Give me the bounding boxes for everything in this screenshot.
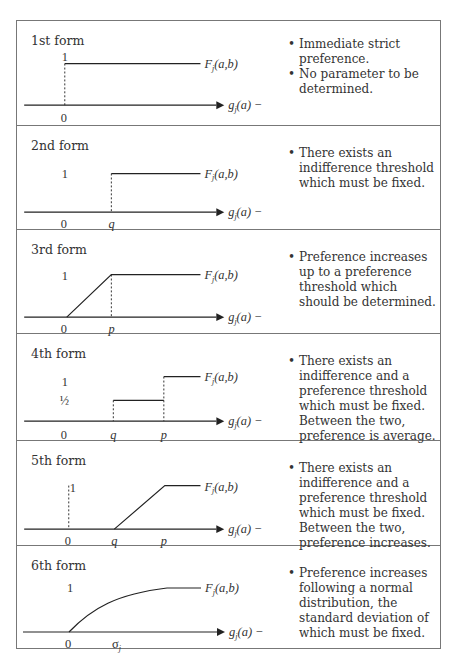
indifference-step-graph: 1 0 q Fj(a,b) gj(a) − bbox=[17, 126, 277, 229]
svg-text:gj(a) −: gj(a) − bbox=[229, 625, 264, 641]
form-6-plot: 1 0 σj Fj(a,b) gj(a) − bbox=[17, 546, 277, 650]
y-tick-1: 1 bbox=[62, 375, 68, 389]
svg-text:Fj(a,b): Fj(a,b) bbox=[204, 581, 239, 597]
description-bullet: There exists an indifference and a prefe… bbox=[288, 461, 438, 551]
form-3-plot: 1 0 p Fj(a,b) gj(a) − bbox=[17, 230, 277, 333]
x-tick-q: q bbox=[110, 428, 116, 442]
arrow-icon bbox=[216, 417, 224, 425]
description-bullet: No parameter to be determined. bbox=[288, 67, 438, 97]
form-5-plot: 1 0 q p Fj(a,b) gj(a) − bbox=[17, 441, 277, 545]
form-row-5: 5th form 1 0 q p Fj(a,b) gj(a) − There e… bbox=[17, 441, 440, 546]
arrow-icon bbox=[216, 525, 224, 533]
arrow-icon bbox=[216, 101, 224, 109]
x-tick-0: 0 bbox=[61, 428, 67, 442]
form-description: Preference increases following a normal … bbox=[288, 566, 438, 641]
description-bullet: Preference increases up to a preference … bbox=[288, 250, 438, 310]
form-2-plot: 1 0 q Fj(a,b) gj(a) − bbox=[17, 126, 277, 229]
arrow-icon bbox=[216, 208, 224, 216]
form-4-plot: 1 ½ 0 q p Fj(a,b) gj(a) − bbox=[17, 334, 277, 440]
step-function-graph: 1 0 Fj(a,b) gj(a) − bbox=[17, 21, 277, 125]
form-description: There exists an indifference and a prefe… bbox=[288, 461, 438, 551]
curve bbox=[114, 486, 200, 530]
svg-text:gj(a) −: gj(a) − bbox=[228, 98, 262, 114]
form-description: Preference increases up to a preference … bbox=[288, 250, 438, 310]
x-tick-p: p bbox=[160, 428, 167, 442]
curve bbox=[67, 275, 201, 318]
form-description: There exists an indifference and a prefe… bbox=[288, 354, 438, 444]
form-description: Immediate strict preference. No paramete… bbox=[288, 37, 438, 97]
form-row-3: 3rd form 1 0 p Fj(a,b) gj(a) − Preferenc… bbox=[17, 230, 440, 334]
description-bullet: Immediate strict preference. bbox=[288, 37, 438, 67]
svg-text:gj(a) −: gj(a) − bbox=[228, 414, 262, 430]
form-description: There exists an indifference threshold w… bbox=[288, 146, 438, 191]
linear-graph: 1 0 p Fj(a,b) gj(a) − bbox=[17, 230, 277, 333]
arrow-icon bbox=[217, 628, 225, 636]
svg-text:gj(a) −: gj(a) − bbox=[228, 522, 262, 538]
svg-text:Fj(a,b): Fj(a,b) bbox=[203, 480, 237, 496]
svg-text:Fj(a,b): Fj(a,b) bbox=[203, 57, 237, 73]
y-tick-1: 1 bbox=[62, 167, 68, 181]
y-tick-half: ½ bbox=[60, 394, 69, 408]
description-bullet: There exists an indifference and a prefe… bbox=[288, 354, 438, 444]
description-bullet: There exists an indifference threshold w… bbox=[288, 146, 438, 191]
svg-text:Fj(a,b): Fj(a,b) bbox=[203, 268, 237, 284]
y-tick-1: 1 bbox=[70, 481, 76, 495]
form-row-2: 2nd form 1 0 q Fj(a,b) gj(a) − There exi… bbox=[17, 126, 440, 230]
description-bullet: Preference increases following a normal … bbox=[288, 566, 438, 641]
x-tick-0: 0 bbox=[61, 217, 67, 231]
x-tick-q: q bbox=[108, 217, 114, 231]
level-graph: 1 ½ 0 q p Fj(a,b) gj(a) − bbox=[17, 334, 277, 440]
gaussian-graph: 1 0 σj Fj(a,b) gj(a) − bbox=[17, 546, 277, 650]
x-tick-0: 0 bbox=[61, 111, 67, 125]
curve bbox=[69, 588, 201, 632]
y-tick-1: 1 bbox=[67, 581, 73, 595]
svg-text:gj(a) −: gj(a) − bbox=[228, 310, 262, 326]
preference-functions-table: 1st form 1 0 Fj(a,b) gj(a) − Immediate s… bbox=[16, 20, 441, 649]
svg-text:Fj(a,b): Fj(a,b) bbox=[203, 167, 237, 183]
linear-indifference-graph: 1 0 q p Fj(a,b) gj(a) − bbox=[17, 441, 277, 545]
y-tick-1: 1 bbox=[62, 269, 68, 283]
form-1-plot: 1 0 Fj(a,b) gj(a) − bbox=[17, 21, 277, 125]
svg-text:gj(a) −: gj(a) − bbox=[228, 205, 262, 221]
arrow-icon bbox=[216, 313, 224, 321]
form-row-1: 1st form 1 0 Fj(a,b) gj(a) − Immediate s… bbox=[17, 21, 440, 126]
x-tick-0: 0 bbox=[65, 637, 71, 651]
form-row-4: 4th form 1 ½ 0 q p Fj(a,b) gj(a) − There… bbox=[17, 334, 440, 441]
svg-text:Fj(a,b): Fj(a,b) bbox=[203, 370, 237, 386]
form-row-6: 6th form 1 0 σj Fj(a,b) gj(a) − Preferen… bbox=[17, 546, 440, 650]
svg-text:σj: σj bbox=[112, 637, 122, 653]
y-tick-1: 1 bbox=[62, 50, 68, 64]
